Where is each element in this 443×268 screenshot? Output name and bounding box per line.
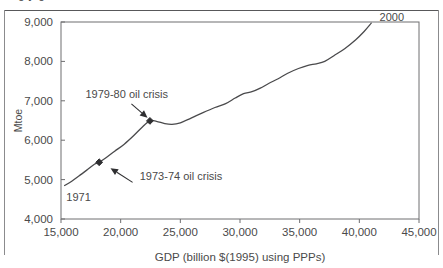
annotation-end-year: 2000 xyxy=(380,11,404,23)
data-point-marker xyxy=(147,117,154,124)
chart-text: 8,000 xyxy=(24,55,53,67)
chart-text: 7,000 xyxy=(24,95,53,107)
y-axis-label: Mtoe xyxy=(12,109,24,133)
annotation-start-year: 1971 xyxy=(66,191,90,203)
data-series-layer xyxy=(65,23,372,185)
data-point-marker xyxy=(96,159,103,166)
annotation-arrow-shaft xyxy=(131,104,141,113)
chart-text: 45,000 xyxy=(401,226,436,238)
annotation-1973-74-oil-crisis: 1973-74 oil crisis xyxy=(140,170,223,182)
x-axis-ticks: 15,00020,00025,00030,00035,00040,00045,0… xyxy=(43,219,436,238)
annotation-arrow-head xyxy=(111,168,119,175)
chart-text: 40,000 xyxy=(342,226,377,238)
chart-text: 15,000 xyxy=(43,226,78,238)
y-axis-ticks: 4,0005,0006,0007,0008,0009,000 xyxy=(24,16,65,225)
plot-frame xyxy=(61,22,419,219)
annotation-arrow-shaft xyxy=(117,172,133,182)
chart-text: 5,000 xyxy=(24,174,53,186)
annotation-1979-80-oil-crisis: 1979-80 oil crisis xyxy=(85,88,168,100)
chart-text: 6,000 xyxy=(24,134,53,146)
plot-border xyxy=(61,22,419,219)
chart-text: 9,000 xyxy=(24,16,53,28)
annotation-layer: 1979-80 oil crisis1973-74 oil crisis1971… xyxy=(66,11,404,203)
chart-text: 20,000 xyxy=(103,226,138,238)
figure-container: g y g 15,00020,00025,00030,00035,00040,0… xyxy=(0,0,443,268)
chart-text: 30,000 xyxy=(222,226,257,238)
line-chart: 15,00020,00025,00030,00035,00040,00045,0… xyxy=(0,0,443,268)
chart-text: 25,000 xyxy=(163,226,198,238)
axis-label-layer: GDP (billion $(1995) using PPPs)Mtoe xyxy=(12,109,325,263)
chart-text: 4,000 xyxy=(24,213,53,225)
x-axis-label: GDP (billion $(1995) using PPPs) xyxy=(155,251,326,263)
chart-text: 35,000 xyxy=(282,226,317,238)
series-line xyxy=(65,23,372,185)
